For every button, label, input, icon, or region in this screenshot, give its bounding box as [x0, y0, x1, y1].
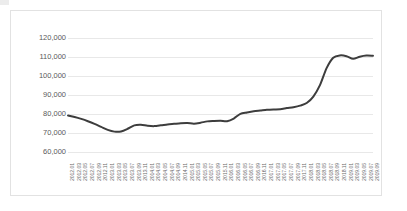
x-tick-label: 2014.11	[183, 163, 188, 181]
y-axis: 60,00070,00080,00090,000100,000110,00012…	[19, 34, 66, 161]
x-tick-label: 2014.05	[163, 163, 168, 181]
x-tick-label: 2012.07	[90, 163, 95, 181]
y-tick-label: 100,000	[39, 72, 66, 80]
x-tick-label: 2018.05	[322, 163, 327, 181]
x-tick-label: 2014.03	[156, 163, 161, 181]
x-tick-label: 2013.11	[143, 163, 148, 181]
y-tick-label: 110,000	[39, 53, 66, 61]
x-tick-label: 2013.05	[123, 163, 128, 181]
x-tick-label: 2018.09	[335, 163, 340, 181]
x-tick-label: 2018.01	[309, 163, 314, 181]
x-tick-label: 2015.09	[216, 163, 221, 181]
x-tick-label: 2012.01	[70, 163, 75, 181]
x-tick-label: 2019.05	[362, 163, 367, 181]
corner-artifact	[0, 0, 9, 5]
x-tick-label: 2013.01	[110, 163, 115, 181]
x-tick-label: 2013.09	[137, 163, 142, 181]
y-tick-label: 60,000	[43, 148, 66, 156]
x-tick-label: 2015.07	[209, 163, 214, 181]
x-tick-label: 2017.07	[289, 163, 294, 181]
x-tick-label: 2018.03	[316, 163, 321, 181]
x-tick-label: 2013.07	[130, 163, 135, 181]
chart-frame: 60,00070,00080,00090,000100,000110,00012…	[10, 10, 382, 196]
x-tick-label: 2017.01	[269, 163, 274, 181]
chart-screenshot: 60,00070,00080,00090,000100,000110,00012…	[0, 0, 407, 211]
series-line-path	[68, 55, 373, 131]
x-tick-label: 2019.07	[369, 163, 374, 181]
x-tick-label: 2014.09	[176, 163, 181, 181]
x-tick-label: 2019.03	[355, 163, 360, 181]
x-tick-label: 2016.11	[262, 163, 267, 181]
x-tick-label: 2012.11	[103, 163, 108, 181]
y-tick-label: 90,000	[43, 91, 66, 99]
x-axis: 2012.012012.032012.052012.072012.092012.…	[68, 163, 373, 203]
x-tick-label: 2017.11	[302, 163, 307, 181]
x-tick-label: 2016.05	[243, 163, 248, 181]
x-tick-label: 2012.05	[83, 163, 88, 181]
x-tick-label: 2015.01	[190, 163, 195, 181]
line-series	[68, 34, 373, 161]
x-tick-label: 2016.01	[229, 163, 234, 181]
x-tick-label: 2017.05	[282, 163, 287, 181]
x-tick-label: 2016.07	[249, 163, 254, 181]
x-tick-label: 2015.03	[196, 163, 201, 181]
plot-area	[68, 34, 373, 161]
x-tick-label: 2019.09	[375, 163, 380, 181]
y-tick-label: 80,000	[43, 110, 66, 118]
x-tick-label: 2016.03	[236, 163, 241, 181]
y-tick-label: 120,000	[39, 34, 66, 42]
y-tick-label: 70,000	[43, 129, 66, 137]
x-tick-label: 2018.11	[342, 163, 347, 181]
